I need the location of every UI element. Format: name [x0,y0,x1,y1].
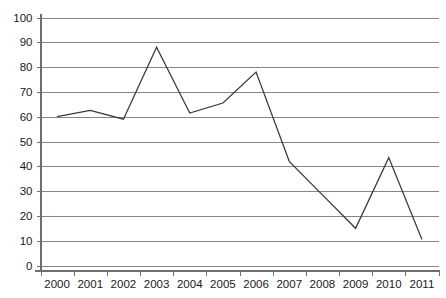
y-tick-label: 10 [20,235,33,247]
x-tick-label: 2009 [343,278,369,290]
x-tick-label: 2008 [310,278,336,290]
line-chart: 0102030405060708090100 20002001200220032… [0,0,446,298]
data-series [57,47,422,239]
y-tick-label: 50 [20,136,33,148]
y-tick-label: 30 [20,185,33,197]
x-axis [35,271,440,276]
x-tick-label: 2000 [44,278,70,290]
y-axis-tick-labels: 0102030405060708090100 [13,12,32,272]
y-tick-label: 20 [20,210,33,222]
x-tick-label: 2011 [410,278,435,290]
chart-canvas: 0102030405060708090100 20002001200220032… [0,0,446,298]
y-tick-label: 100 [13,12,32,24]
y-tick-label: 60 [20,111,33,123]
x-tick-label: 2006 [243,278,269,290]
x-axis-tick-labels: 2000200120022003200420052006200720082009… [44,278,434,290]
x-tick-label: 2002 [111,278,137,290]
x-tick-label: 2001 [77,278,103,290]
y-tick-label: 40 [20,160,33,172]
x-tick-label: 2005 [210,278,236,290]
x-tick-label: 2004 [177,278,203,290]
series-line [57,47,422,239]
y-axis [37,14,42,271]
y-tick-label: 70 [20,86,33,98]
x-tick-label: 2003 [144,278,170,290]
x-tick-label: 2007 [276,278,302,290]
y-tick-label: 90 [20,36,33,48]
y-tick-label: 80 [20,61,33,73]
gridlines [41,19,439,267]
x-tick-label: 2010 [376,278,402,290]
y-tick-label: 0 [26,260,32,272]
